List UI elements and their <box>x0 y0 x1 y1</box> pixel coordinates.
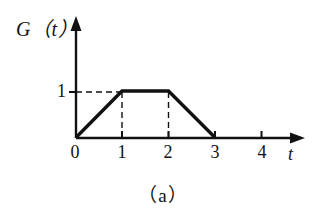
x-tick-label-1: 1 <box>113 143 131 161</box>
x-tick-label-2: 2 <box>159 143 177 161</box>
curve-g-of-t <box>76 91 215 138</box>
x-tick-label-0: 0 <box>66 143 84 161</box>
x-axis-label: t <box>288 145 293 163</box>
x-tick-label-3: 3 <box>206 143 224 161</box>
y-axis-label: G（t） <box>16 19 78 39</box>
x-tick-label-4: 4 <box>253 143 271 161</box>
figure-caption: （a） <box>0 186 326 205</box>
y-tick-label-1: 1 <box>57 82 66 100</box>
x-axis-arrowhead <box>290 133 305 144</box>
figure-container: G（t） t 1 0 1 2 3 4 （a） <box>0 0 326 224</box>
